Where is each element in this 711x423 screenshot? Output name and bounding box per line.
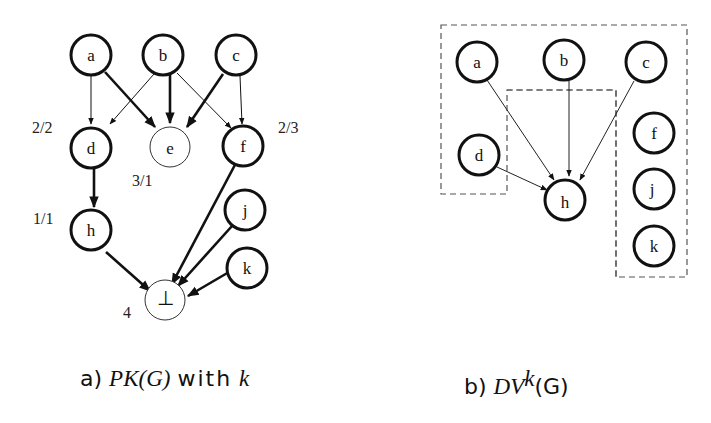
diagram-canvas: a b c d e f h j k ⊥ 2/2 2/3 3/1 1/1 4 a … bbox=[0, 0, 711, 423]
node-b: b bbox=[143, 35, 183, 75]
svg-text:k: k bbox=[243, 259, 252, 278]
caption-panel-b: b) DVk(G) bbox=[464, 366, 569, 400]
edge-a-e bbox=[105, 72, 155, 127]
annotation-h: 1/1 bbox=[33, 210, 53, 227]
panel-b-edges bbox=[487, 80, 634, 190]
annotation-d: 2/2 bbox=[32, 119, 52, 136]
panel-b-nodes: a b c d h f j k bbox=[457, 40, 674, 266]
svg-text:⊥: ⊥ bbox=[157, 287, 174, 309]
node-b-h: h bbox=[545, 180, 585, 220]
svg-text:f: f bbox=[240, 137, 246, 156]
edge-b-d bbox=[110, 74, 154, 124]
edge-h-bot bbox=[106, 252, 150, 291]
annotation-f: 2/3 bbox=[278, 119, 298, 136]
svg-text:a: a bbox=[473, 53, 481, 72]
node-d: d bbox=[71, 128, 111, 168]
caption-b-prefix: b) bbox=[464, 374, 487, 399]
node-b-c: c bbox=[626, 42, 666, 82]
caption-b-tail: (G) bbox=[534, 374, 568, 399]
node-b-a: a bbox=[457, 42, 497, 82]
caption-a-text: with bbox=[177, 366, 232, 391]
svg-text:c: c bbox=[642, 53, 650, 72]
svg-text:d: d bbox=[87, 139, 96, 158]
node-c: c bbox=[216, 35, 256, 75]
edge-b-c-h bbox=[580, 81, 634, 180]
node-b-b: b bbox=[544, 40, 584, 80]
node-b-f: f bbox=[634, 113, 674, 153]
node-bottom: ⊥ bbox=[145, 280, 185, 320]
caption-a-var: k bbox=[239, 366, 249, 391]
annotation-bottom: 4 bbox=[123, 304, 131, 321]
svg-text:f: f bbox=[651, 124, 657, 143]
node-f: f bbox=[223, 126, 263, 166]
svg-text:b: b bbox=[159, 46, 168, 65]
node-a: a bbox=[71, 35, 111, 75]
node-j: j bbox=[225, 190, 265, 230]
svg-text:e: e bbox=[166, 139, 174, 158]
caption-b-math: DV bbox=[494, 374, 525, 399]
svg-text:a: a bbox=[87, 46, 95, 65]
node-b-d: d bbox=[459, 135, 499, 175]
annotation-e: 3/1 bbox=[132, 172, 152, 189]
node-k: k bbox=[227, 248, 267, 288]
edge-c-e bbox=[187, 74, 223, 127]
caption-a-math: PK(G) bbox=[109, 366, 170, 391]
svg-text:c: c bbox=[232, 46, 240, 65]
edge-c-f bbox=[240, 76, 242, 124]
svg-text:b: b bbox=[560, 51, 569, 70]
node-e: e bbox=[150, 127, 190, 167]
panel-a-edges bbox=[91, 72, 242, 296]
caption-panel-a: a) PK(G) with k bbox=[80, 366, 249, 392]
svg-text:j: j bbox=[242, 201, 248, 220]
node-h: h bbox=[71, 210, 111, 250]
edge-b-d-h bbox=[497, 167, 547, 190]
node-b-j: j bbox=[634, 169, 674, 209]
svg-text:h: h bbox=[561, 193, 570, 212]
svg-text:j: j bbox=[649, 180, 655, 199]
svg-text:h: h bbox=[87, 221, 96, 240]
caption-b-sup: k bbox=[524, 366, 534, 391]
edge-k-bot bbox=[188, 272, 229, 296]
caption-a-prefix: a) bbox=[80, 366, 102, 391]
node-b-k: k bbox=[634, 226, 674, 266]
svg-text:d: d bbox=[475, 146, 484, 165]
svg-text:k: k bbox=[650, 237, 659, 256]
